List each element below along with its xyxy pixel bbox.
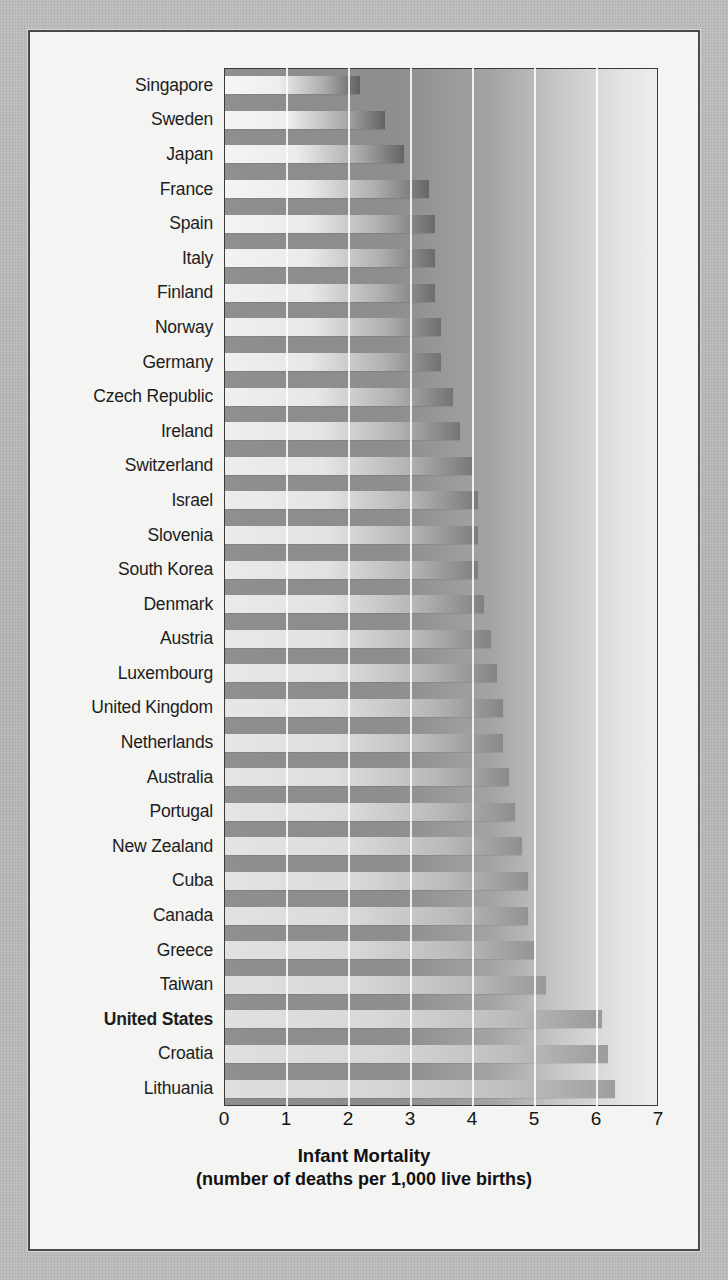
bar-track (224, 414, 698, 449)
bar-row-label: Luxembourg (30, 663, 224, 684)
bar[interactable] (224, 941, 534, 959)
bar[interactable] (224, 561, 478, 579)
bar-track (224, 449, 698, 484)
bar-row[interactable]: Lithuania (30, 1071, 698, 1106)
x-tick-label-7: 7 (653, 1108, 664, 1130)
bar[interactable] (224, 76, 360, 94)
bar-track (224, 725, 698, 760)
bar[interactable] (224, 526, 478, 544)
bar-row-label: Portugal (30, 801, 224, 822)
bar-row[interactable]: France (30, 172, 698, 207)
bar-row[interactable]: Israel (30, 483, 698, 518)
bar-track (224, 1002, 698, 1037)
bar-track (224, 552, 698, 587)
bar-row[interactable]: Canada (30, 898, 698, 933)
bar-row-label: Canada (30, 905, 224, 926)
bar-track (224, 379, 698, 414)
bar[interactable] (224, 215, 435, 233)
bar-row[interactable]: Greece (30, 933, 698, 968)
bar-row-label: Greece (30, 940, 224, 961)
bar-track (224, 691, 698, 726)
bar-track (224, 310, 698, 345)
bar-row-label: Taiwan (30, 974, 224, 995)
axis-title-main: Infant Mortality (30, 1144, 698, 1168)
bar-row-label: Italy (30, 248, 224, 269)
bar[interactable] (224, 1045, 608, 1063)
bar-track (224, 829, 698, 864)
bar-row[interactable]: New Zealand (30, 829, 698, 864)
bar-row[interactable]: Ireland (30, 414, 698, 449)
bar[interactable] (224, 872, 528, 890)
bar[interactable] (224, 111, 385, 129)
x-tick-label-4: 4 (467, 1108, 478, 1130)
bar-row-label: Japan (30, 144, 224, 165)
bar-row[interactable]: Austria (30, 622, 698, 657)
bar[interactable] (224, 422, 460, 440)
bar-row[interactable]: Australia (30, 760, 698, 795)
bar-track (224, 760, 698, 795)
bar[interactable] (224, 284, 435, 302)
bar[interactable] (224, 630, 491, 648)
bar[interactable] (224, 734, 503, 752)
bar-row[interactable]: Italy (30, 241, 698, 276)
bar[interactable] (224, 803, 515, 821)
bar-row-label: Czech Republic (30, 386, 224, 407)
bar[interactable] (224, 595, 484, 613)
x-tick-label-5: 5 (529, 1108, 540, 1130)
bar-chart: SingaporeSwedenJapanFranceSpainItalyFinl… (30, 32, 698, 1249)
bar-row[interactable]: Taiwan (30, 967, 698, 1002)
bar-row[interactable]: United States (30, 1002, 698, 1037)
figure-card: SingaporeSwedenJapanFranceSpainItalyFinl… (28, 30, 700, 1251)
bar-row[interactable]: Czech Republic (30, 379, 698, 414)
bar-row[interactable]: Netherlands (30, 725, 698, 760)
bar[interactable] (224, 249, 435, 267)
x-tick-label-6: 6 (591, 1108, 602, 1130)
bar[interactable] (224, 318, 441, 336)
bar-row[interactable]: Portugal (30, 794, 698, 829)
bar-row[interactable]: Denmark (30, 587, 698, 622)
bar-row[interactable]: Singapore (30, 68, 698, 103)
bar-row[interactable]: Germany (30, 345, 698, 380)
x-tick-label-1: 1 (281, 1108, 292, 1130)
bar-row-label: Switzerland (30, 455, 224, 476)
bar-row[interactable]: Japan (30, 137, 698, 172)
bar[interactable] (224, 1010, 602, 1028)
bar-row[interactable]: Luxembourg (30, 656, 698, 691)
bar[interactable] (224, 353, 441, 371)
bar-row[interactable]: Finland (30, 276, 698, 311)
bar[interactable] (224, 388, 453, 406)
bar-track (224, 68, 698, 103)
bar-row[interactable]: South Korea (30, 552, 698, 587)
bar-row[interactable]: Norway (30, 310, 698, 345)
bar[interactable] (224, 907, 528, 925)
axis-title: Infant Mortality (number of deaths per 1… (30, 1144, 698, 1191)
bar[interactable] (224, 837, 522, 855)
bar-track (224, 172, 698, 207)
bar[interactable] (224, 699, 503, 717)
bar-row[interactable]: Croatia (30, 1037, 698, 1072)
bar-rows: SingaporeSwedenJapanFranceSpainItalyFinl… (30, 68, 698, 1106)
bar-row[interactable]: Switzerland (30, 449, 698, 484)
x-axis-ticks: 01234567 (224, 1108, 658, 1138)
bar[interactable] (224, 976, 546, 994)
bar-track (224, 276, 698, 311)
bar[interactable] (224, 457, 472, 475)
bar[interactable] (224, 664, 497, 682)
bar-row-label: Lithuania (30, 1078, 224, 1099)
bar-row[interactable]: United Kingdom (30, 691, 698, 726)
bar-row-label: Australia (30, 767, 224, 788)
bar[interactable] (224, 1080, 615, 1098)
bar-row[interactable]: Sweden (30, 103, 698, 138)
bar-row[interactable]: Slovenia (30, 518, 698, 553)
bar-row-label: Austria (30, 628, 224, 649)
bar[interactable] (224, 180, 429, 198)
bar-row[interactable]: Spain (30, 206, 698, 241)
bar-track (224, 241, 698, 276)
bar[interactable] (224, 145, 404, 163)
bar-row-label: Denmark (30, 594, 224, 615)
bar-row-label: United States (30, 1009, 224, 1030)
bar[interactable] (224, 768, 509, 786)
bar[interactable] (224, 491, 478, 509)
bar-row[interactable]: Cuba (30, 864, 698, 899)
bar-track (224, 864, 698, 899)
